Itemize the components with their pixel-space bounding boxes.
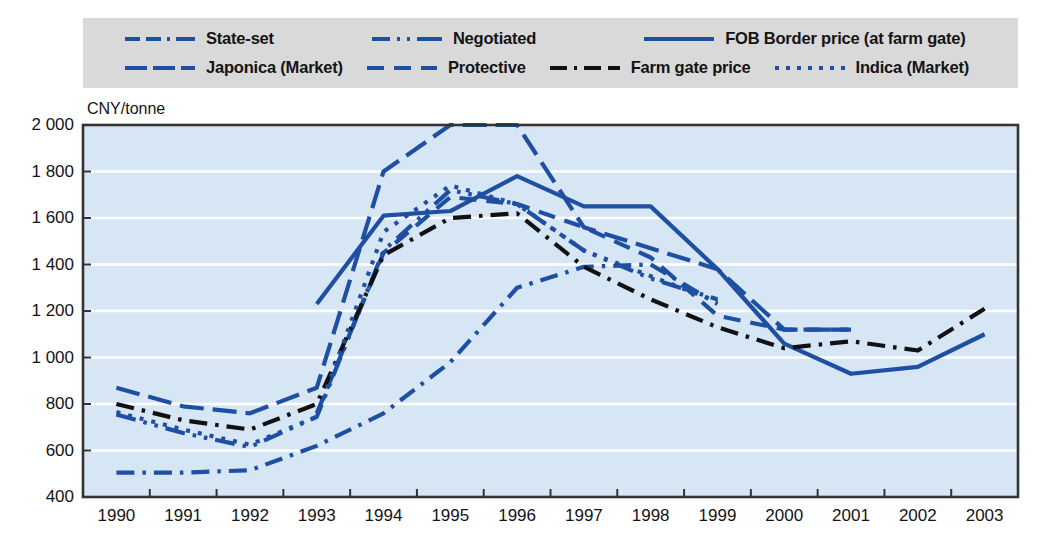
plot-area [0, 0, 1058, 552]
chart-container: State-set Negotiated FOB Border price (a… [0, 0, 1058, 552]
